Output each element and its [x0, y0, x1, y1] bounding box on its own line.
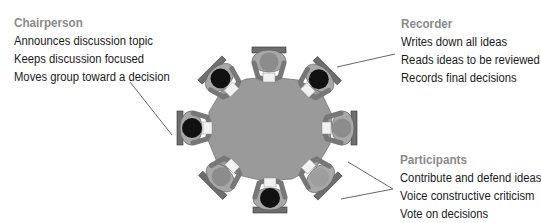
chairperson-duty: Announces discussion topic: [14, 32, 170, 50]
chairperson-block: Chairperson Announces discussion topic K…: [14, 14, 170, 86]
recorder-block: Recorder Writes down all ideas Reads ide…: [401, 15, 540, 87]
chairperson-leader-line: [130, 82, 172, 135]
participants-duty: Vote on decisions: [400, 205, 541, 223]
recorder-duty: Reads ideas to be reviewed: [401, 51, 540, 69]
participants-title: Participants: [400, 151, 541, 169]
recorder-title: Recorder: [401, 15, 540, 33]
participants-duty: Voice constructive criticism: [400, 187, 541, 205]
chairperson-duty: Keeps discussion focused: [14, 50, 170, 68]
participants-leader-line: [341, 162, 393, 199]
participants-block: Participants Contribute and defend ideas…: [400, 151, 541, 223]
participants-duty: Contribute and defend ideas: [400, 169, 541, 187]
seat-right: [322, 111, 357, 145]
recorder-leader-line: [337, 54, 395, 67]
recorder-duty: Writes down all ideas: [401, 33, 540, 51]
seat-bottom: [253, 178, 287, 213]
recorder-duty: Records final decisions: [401, 69, 540, 87]
seat-left-chairperson: [177, 111, 212, 145]
chairperson-duty: Moves group toward a decision: [14, 68, 170, 86]
seat-top: [252, 47, 286, 82]
chairperson-title: Chairperson: [14, 14, 170, 32]
